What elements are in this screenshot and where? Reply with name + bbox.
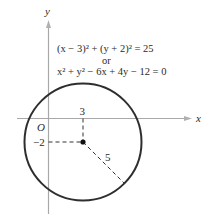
x-axis-label: x	[195, 112, 201, 124]
radius-line	[83, 142, 124, 183]
y-axis	[46, 20, 51, 214]
coordinate-diagram: y x O 3 −2 5 (x − 3)² + (y + 2)² = 25 or…	[0, 0, 205, 224]
equation-standard-form: (x − 3)² + (y + 2)² = 25	[57, 43, 153, 55]
radius-label: 5	[105, 151, 111, 163]
center-point	[80, 139, 85, 144]
equation-connector: or	[102, 55, 111, 66]
y-axis-arrow-icon	[46, 20, 51, 28]
center-y-label: −2	[33, 136, 45, 148]
y-axis-label: y	[44, 5, 50, 17]
origin-label: O	[37, 121, 45, 133]
center-x-label: 3	[80, 105, 86, 117]
equation-general-form: x² + y² − 6x + 4y − 12 = 0	[57, 66, 166, 77]
x-axis-arrow-icon	[184, 116, 192, 121]
